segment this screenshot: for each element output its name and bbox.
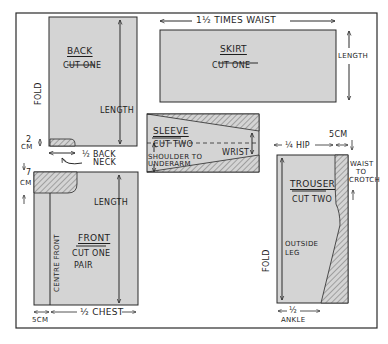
pattern-diagram: BACK CUT ONE LENGTH FOLD 2 CM ½ BACK NEC…	[0, 0, 388, 344]
back-neck-width-label-2: NECK	[93, 158, 116, 167]
skirt-piece	[160, 21, 349, 102]
front-neck-depth-unit: CM	[20, 179, 32, 188]
sleeve-title: SLEEVE	[153, 127, 189, 136]
trouser-instruction: CUT TWO	[292, 195, 332, 204]
trouser-crotch-ext-label: 5CM	[329, 130, 347, 139]
skirt-title: SKIRT	[220, 45, 247, 54]
front-length-label: LENGTH	[94, 198, 128, 207]
skirt-length-label: LENGTH	[338, 52, 368, 61]
skirt-instruction: CUT ONE	[212, 61, 250, 70]
trouser-waist-label-3: CROTCH	[349, 176, 380, 185]
trouser-piece	[274, 140, 353, 311]
trouser-leg-label: OUTSIDE	[285, 240, 318, 249]
sleeve-height-label-2: UNDERARM	[148, 160, 191, 169]
trouser-title: TROUSER	[290, 180, 335, 189]
trouser-width-label: ¼ HIP	[285, 141, 310, 150]
trouser-ankle-label: ½	[289, 306, 297, 315]
trouser-leg-label-2: LEG	[285, 249, 300, 258]
back-neck-depth-unit: CM	[21, 143, 33, 152]
front-title: FRONT	[78, 234, 110, 243]
back-piece	[40, 17, 137, 164]
trouser-fold-label: FOLD	[262, 249, 271, 272]
back-fold-label: FOLD	[34, 82, 43, 105]
back-length-label: LENGTH	[100, 106, 134, 115]
front-instruction: CUT ONE	[72, 249, 110, 258]
trouser-ankle-label-2: ANKLE	[281, 316, 305, 325]
front-neck-depth-value: 7	[26, 168, 31, 177]
front-width-label: ½ CHEST	[80, 308, 124, 317]
front-instruction-2: PAIR	[74, 261, 93, 270]
skirt-width-label: 1½ TIMES WAIST	[196, 16, 276, 25]
back-title: BACK	[67, 47, 93, 56]
back-instruction: CUT ONE	[63, 61, 101, 70]
sleeve-instruction: CUT TWO	[153, 140, 193, 149]
front-extension-label: 5CM	[32, 316, 48, 325]
sleeve-wrist-label: WRIST	[222, 148, 249, 157]
front-centre-label: CENTRE FRONT	[53, 234, 62, 292]
